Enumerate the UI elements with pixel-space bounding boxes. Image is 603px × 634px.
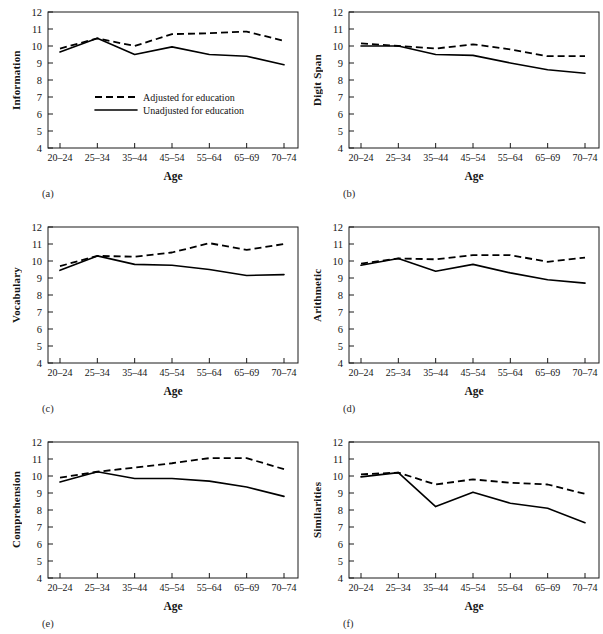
y-tick-label: 6 bbox=[37, 109, 42, 120]
x-axis-title: Age bbox=[349, 170, 599, 182]
y-tick-label: 6 bbox=[338, 324, 343, 335]
x-tick-label: 70–74 bbox=[573, 582, 598, 593]
y-tick-label: 7 bbox=[37, 92, 42, 103]
y-tick-label: 8 bbox=[37, 75, 42, 86]
y-tick-label: 10 bbox=[32, 471, 43, 482]
y-tick-label: 5 bbox=[37, 126, 42, 137]
y-tick-label: 12 bbox=[32, 7, 43, 18]
chart-panel-d: 12111098765420–2425–3435–4445–5455–6465–… bbox=[301, 215, 603, 430]
y-axis-title: Vocabulary bbox=[10, 227, 22, 363]
y-tick-label: 11 bbox=[333, 24, 343, 35]
y-tick-label: 6 bbox=[37, 539, 42, 550]
y-axis-title: Similarities bbox=[311, 442, 323, 578]
y-tick-label: 8 bbox=[37, 505, 42, 516]
series-line-unadjusted bbox=[60, 38, 284, 64]
x-axis-title: Age bbox=[48, 600, 298, 612]
y-tick-label: 4 bbox=[338, 358, 344, 369]
x-tick-label: 25–34 bbox=[386, 152, 411, 163]
y-tick-label: 10 bbox=[333, 256, 344, 267]
x-tick-label: 65–69 bbox=[535, 367, 560, 378]
y-tick-label: 7 bbox=[338, 522, 343, 533]
y-tick-label: 7 bbox=[37, 307, 42, 318]
y-tick-label: 8 bbox=[338, 75, 343, 86]
plot-area: 12111098765420–2425–3435–4445–5455–6465–… bbox=[301, 215, 602, 430]
panel-letter: (c) bbox=[42, 403, 54, 414]
y-tick-label: 10 bbox=[32, 256, 43, 267]
y-tick-label: 6 bbox=[338, 539, 343, 550]
x-tick-label: 70–74 bbox=[272, 367, 297, 378]
x-tick-label: 65–69 bbox=[234, 367, 259, 378]
x-tick-label: 20–24 bbox=[48, 582, 73, 593]
y-tick-label: 7 bbox=[37, 522, 42, 533]
x-tick-label: 35–44 bbox=[423, 367, 448, 378]
series-line-unadjusted bbox=[60, 256, 284, 276]
plot-area: 12111098765420–2425–3435–4445–5455–6465–… bbox=[0, 215, 301, 430]
chart-panel-b: 12111098765420–2425–3435–4445–5455–6465–… bbox=[301, 0, 603, 215]
y-tick-label: 11 bbox=[32, 24, 42, 35]
panel-letter: (b) bbox=[343, 188, 355, 199]
y-tick-label: 8 bbox=[338, 505, 343, 516]
plot-frame bbox=[349, 227, 599, 363]
series-line-adjusted bbox=[60, 458, 284, 478]
x-tick-label: 20–24 bbox=[48, 367, 73, 378]
x-tick-label: 45–54 bbox=[160, 582, 185, 593]
y-axis-title: Comprehension bbox=[10, 442, 22, 578]
y-tick-label: 4 bbox=[338, 143, 344, 154]
x-tick-label: 25–34 bbox=[386, 367, 411, 378]
y-tick-label: 11 bbox=[333, 239, 343, 250]
plot-frame bbox=[349, 442, 599, 578]
y-tick-label: 12 bbox=[333, 7, 344, 18]
y-tick-label: 9 bbox=[37, 58, 42, 69]
x-axis-title: Age bbox=[48, 385, 298, 397]
panel-letter: (d) bbox=[343, 403, 355, 414]
x-tick-label: 55–64 bbox=[498, 582, 523, 593]
plot-area: 12111098765420–2425–3435–4445–5455–6465–… bbox=[0, 0, 301, 215]
x-tick-label: 20–24 bbox=[48, 152, 73, 163]
y-tick-label: 8 bbox=[338, 290, 343, 301]
x-tick-label: 55–64 bbox=[197, 152, 222, 163]
y-tick-label: 7 bbox=[338, 307, 343, 318]
y-tick-label: 12 bbox=[333, 222, 344, 233]
x-tick-label: 55–64 bbox=[197, 367, 222, 378]
y-tick-label: 4 bbox=[37, 358, 43, 369]
y-tick-label: 6 bbox=[338, 109, 343, 120]
x-tick-label: 25–34 bbox=[85, 582, 110, 593]
y-tick-label: 4 bbox=[37, 143, 43, 154]
x-tick-label: 35–44 bbox=[423, 582, 448, 593]
y-tick-label: 5 bbox=[37, 556, 42, 567]
x-tick-label: 35–44 bbox=[122, 367, 147, 378]
y-tick-label: 10 bbox=[333, 41, 344, 52]
y-tick-label: 8 bbox=[37, 290, 42, 301]
series-line-unadjusted bbox=[60, 472, 284, 497]
y-tick-label: 6 bbox=[37, 324, 42, 335]
x-tick-label: 20–24 bbox=[349, 582, 374, 593]
x-axis-title: Age bbox=[349, 385, 599, 397]
y-tick-label: 5 bbox=[37, 341, 42, 352]
series-line-adjusted bbox=[361, 473, 585, 494]
y-tick-label: 4 bbox=[37, 573, 43, 584]
x-tick-label: 45–54 bbox=[461, 582, 486, 593]
y-tick-label: 11 bbox=[333, 454, 343, 465]
y-tick-label: 11 bbox=[32, 239, 42, 250]
x-tick-label: 65–69 bbox=[535, 582, 560, 593]
y-tick-label: 10 bbox=[333, 471, 344, 482]
x-tick-label: 65–69 bbox=[535, 152, 560, 163]
y-axis-title: Information bbox=[10, 12, 22, 148]
x-tick-label: 45–54 bbox=[461, 152, 486, 163]
x-tick-label: 25–34 bbox=[386, 582, 411, 593]
x-axis-title: Age bbox=[48, 170, 298, 182]
plot-frame bbox=[48, 12, 298, 148]
x-tick-label: 45–54 bbox=[160, 367, 185, 378]
y-tick-label: 12 bbox=[333, 437, 344, 448]
x-tick-label: 55–64 bbox=[197, 582, 222, 593]
x-tick-label: 45–54 bbox=[461, 367, 486, 378]
y-tick-label: 9 bbox=[338, 273, 343, 284]
x-tick-label: 70–74 bbox=[573, 152, 598, 163]
plot-area: 12111098765420–2425–3435–4445–5455–6465–… bbox=[301, 0, 602, 215]
x-tick-label: 25–34 bbox=[85, 367, 110, 378]
x-tick-label: 20–24 bbox=[349, 152, 374, 163]
y-tick-label: 9 bbox=[338, 58, 343, 69]
x-tick-label: 65–69 bbox=[234, 152, 259, 163]
x-tick-label: 70–74 bbox=[573, 367, 598, 378]
y-tick-label: 9 bbox=[37, 488, 42, 499]
